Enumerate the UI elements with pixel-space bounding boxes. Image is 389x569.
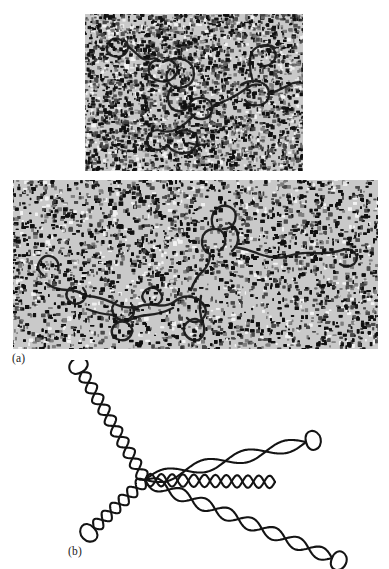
electron-micrograph-bottom bbox=[13, 180, 378, 349]
figure-holliday-junction: (a) (b) bbox=[0, 0, 389, 569]
dna-molecule-trace-bottom bbox=[13, 180, 378, 349]
chi-structure-schematic bbox=[0, 360, 389, 569]
electron-micrograph-top bbox=[85, 14, 303, 171]
dna-double-helix-arms bbox=[69, 360, 346, 569]
chi-structure-svg bbox=[0, 360, 389, 569]
dna-molecule-trace-top bbox=[85, 14, 303, 171]
